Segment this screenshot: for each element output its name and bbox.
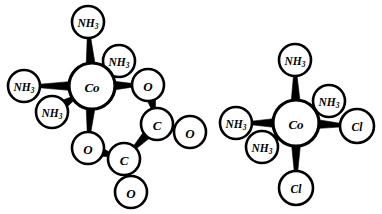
atom-label: O bbox=[185, 125, 195, 140]
atom-layer: NH3NH3NH3NH3OOCCOOCoNH3NH3NH3NH3ClClCo bbox=[8, 6, 374, 208]
atom-r-nh3-lower-left: NH3 bbox=[246, 131, 278, 163]
atom-label: Co bbox=[84, 79, 100, 94]
atom-left-complex-center: Co bbox=[69, 63, 115, 109]
atom-label: O bbox=[126, 185, 136, 200]
atom-l-o-lower: O bbox=[72, 132, 104, 164]
atom-label: Cl bbox=[352, 121, 364, 133]
diagram-canvas: NH3NH3NH3NH3OOCCOOCoNH3NH3NH3NH3ClClCo bbox=[0, 0, 382, 214]
bond-center-to-l-nh3-left bbox=[37, 81, 72, 90]
atom-label: O bbox=[143, 78, 153, 93]
atom-l-c-lower: C bbox=[108, 143, 140, 175]
atom-l-nh3-lower-left: NH3 bbox=[36, 96, 68, 128]
atom-r-nh3-left: NH3 bbox=[220, 107, 252, 139]
atom-r-cl-bottom: Cl bbox=[279, 171, 313, 205]
atom-label: Co bbox=[288, 116, 304, 131]
atom-r-cl-right: Cl bbox=[340, 109, 374, 143]
atom-label: C bbox=[153, 117, 162, 132]
bond-center-to-r-cl-bottom bbox=[291, 143, 300, 174]
atom-l-nh3-top: NH3 bbox=[72, 6, 104, 38]
atom-label: C bbox=[120, 152, 129, 167]
atom-right-complex-center: Co bbox=[273, 100, 319, 146]
atom-l-o-term-bottom: O bbox=[115, 176, 147, 208]
atom-label: O bbox=[83, 141, 93, 156]
atom-l-o-upper: O bbox=[132, 69, 164, 101]
atom-l-c-upper: C bbox=[141, 108, 173, 140]
atom-label: Cl bbox=[291, 183, 303, 195]
atom-l-o-term-right: O bbox=[174, 116, 206, 148]
chemical-structures-svg: NH3NH3NH3NH3OOCCOOCoNH3NH3NH3NH3ClClCo bbox=[0, 0, 382, 214]
atom-r-nh3-top: NH3 bbox=[279, 44, 311, 76]
atom-l-nh3-left: NH3 bbox=[8, 70, 40, 102]
